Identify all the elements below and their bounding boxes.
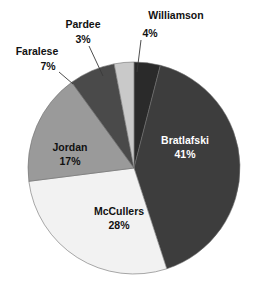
slice-percent-williamson: 4% bbox=[142, 27, 158, 39]
pie-chart-svg: Williamson4%Bratlafski41%McCullers28%Jor… bbox=[0, 0, 257, 286]
slice-percent-pardee: 3% bbox=[75, 33, 91, 45]
slice-label-bratlafski: Bratlafski bbox=[161, 134, 209, 146]
pie-chart-figure: Williamson4%Bratlafski41%McCullers28%Jor… bbox=[0, 0, 257, 286]
slice-label-williamson: Williamson bbox=[148, 9, 203, 21]
slice-percent-faralese: 7% bbox=[40, 60, 56, 72]
slice-percent-bratlafski: 41% bbox=[174, 148, 196, 160]
leader-line-faralese bbox=[59, 72, 73, 84]
slice-label-faralese: Faralese bbox=[16, 45, 59, 57]
pie-slices-group bbox=[28, 62, 240, 274]
slice-label-jordan: Jordan bbox=[52, 141, 87, 153]
slice-percent-jordan: 17% bbox=[59, 155, 81, 167]
slice-percent-mccullers: 28% bbox=[108, 219, 130, 231]
slice-label-pardee: Pardee bbox=[65, 18, 100, 30]
slice-label-mccullers: McCullers bbox=[94, 205, 144, 217]
